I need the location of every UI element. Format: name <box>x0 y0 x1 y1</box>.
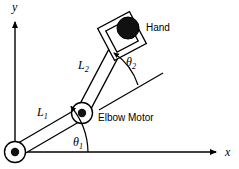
axis-y-label: y <box>12 1 17 13</box>
link-1-label-text: L <box>37 105 44 119</box>
elbow-joint <box>72 103 93 124</box>
theta-1-label: θ1 <box>73 136 83 152</box>
theta2-reference-line <box>99 73 163 110</box>
axis-x-label: x <box>225 146 230 158</box>
base-joint <box>5 142 26 163</box>
hand-payload-ball <box>117 17 139 39</box>
theta-1-label-sub: 1 <box>79 142 83 151</box>
link-2-label: L2 <box>78 59 89 75</box>
theta-2-label-sub: 2 <box>132 62 136 71</box>
link-1-label: L1 <box>37 106 48 122</box>
theta-2-label: θ2 <box>126 56 136 72</box>
link-1-label-sub: 1 <box>44 112 48 121</box>
link-2-label-sub: 2 <box>85 65 89 74</box>
elbow-motor-callout-label: Elbow Motor <box>98 113 154 123</box>
figure-canvas <box>0 0 239 169</box>
link-2-label-text: L <box>78 58 85 72</box>
hand-callout-label: Hand <box>146 23 170 33</box>
robot-arm-figure: y x L1 L2 θ1 θ2 Hand Elbow Motor <box>0 0 239 169</box>
